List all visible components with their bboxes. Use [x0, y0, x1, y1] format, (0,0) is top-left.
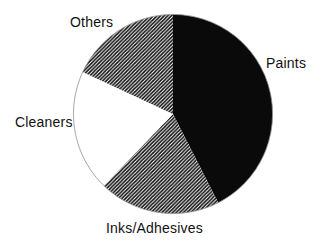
slice-label-paints: Paints: [266, 56, 306, 70]
pie-chart-figure: Others Paints Cleaners Inks/Adhesives: [0, 0, 322, 242]
slice-label-others: Others: [70, 15, 113, 29]
pie-slices: [73, 14, 272, 213]
slice-label-inks-adhesives: Inks/Adhesives: [106, 221, 203, 235]
slice-label-cleaners: Cleaners: [15, 115, 73, 129]
